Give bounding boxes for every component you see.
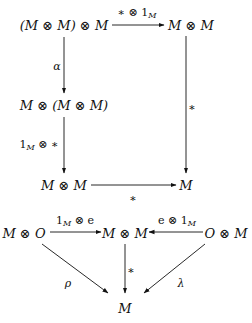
label-top: ∗ ⊗ 1M <box>118 7 157 20</box>
label-lambda: λ <box>178 278 185 289</box>
arrow-right-to-bottom <box>144 244 205 293</box>
node-mid-left: M ⊗ (M ⊗ M) <box>20 99 108 112</box>
label-bottom: ∗ <box>129 193 136 204</box>
label-rho: ρ <box>65 278 71 289</box>
arrow-left-to-bottom <box>42 244 108 293</box>
arrows-layer <box>0 0 252 323</box>
label-right: ∗ <box>188 102 195 113</box>
node-tri-bottom: M <box>118 302 131 315</box>
label-left-lower: 1M ⊗ ∗ <box>20 139 59 152</box>
node-bottom-right: M <box>179 179 192 192</box>
node-tri-center: M ⊗ M <box>102 227 148 240</box>
label-center-to-bottom: ∗ <box>127 265 134 276</box>
node-tri-right: O ⊗ M <box>204 227 247 240</box>
node-top-left: (M ⊗ M) ⊗ M <box>20 19 108 32</box>
node-bottom-left: M ⊗ M <box>41 179 87 192</box>
node-tri-left: M ⊗ O <box>2 227 45 240</box>
label-right-to-center: e ⊗ 1M <box>158 215 196 228</box>
label-left-to-center: 1M ⊗ e <box>56 215 94 228</box>
node-top-right: M ⊗ M <box>168 19 214 32</box>
label-alpha: α <box>53 61 60 72</box>
